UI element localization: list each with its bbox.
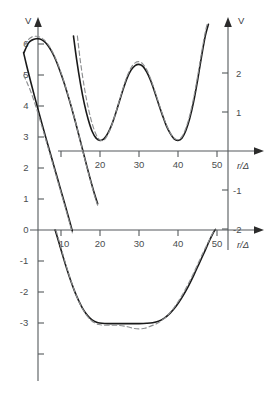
left-axis-group: V 6 5 4 3 2 1 0 -1 (20, 15, 44, 381)
curve-steep-branch-solid (24, 53, 73, 231)
bottom-x-axis-arrowhead (254, 226, 264, 234)
bottom-tick-label-30: 30 (134, 238, 145, 249)
right-axis-title: V (238, 15, 245, 26)
left-tick-label-0: 0 (23, 224, 28, 235)
bottom-x-axis-group: r/Δ 10 20 30 40 50 (30, 226, 264, 250)
right-tick-label-neg1: -1 (233, 185, 241, 196)
curve-upper-branch-dashed (24, 36, 97, 205)
left-tick-label-1: 1 (23, 193, 28, 204)
left-tick-label-4: 4 (23, 100, 28, 111)
curve-oscillating-curve-dashed (77, 22, 207, 140)
bottom-tick-label-50: 50 (212, 238, 223, 249)
left-tick-label-neg3: -3 (20, 317, 28, 328)
left-axis-ticks (38, 44, 44, 354)
bottom-tick-label-20: 20 (95, 238, 106, 249)
middle-x-axis-group: r/Δ 20 30 40 50 (58, 147, 264, 171)
bottom-x-axis-tick-labels: 10 20 30 40 50 (59, 238, 223, 249)
right-tick-label-2: 2 (236, 68, 241, 79)
middle-tick-label-40: 40 (173, 159, 184, 170)
middle-tick-label-20: 20 (95, 159, 106, 170)
middle-x-axis-arrowhead (254, 147, 264, 155)
curve-upper-branch-solid (24, 39, 98, 204)
middle-x-axis-tick-labels: 20 30 40 50 (95, 159, 223, 170)
right-axis-arrowhead (224, 17, 232, 27)
left-tick-label-3: 3 (23, 131, 28, 142)
left-axis-arrowhead (34, 17, 42, 27)
curve-steep-branch-dashed (24, 75, 73, 233)
potential-curve-figure: V 6 5 4 3 2 1 0 -1 (0, 0, 272, 395)
middle-tick-label-50: 50 (212, 159, 223, 170)
left-tick-label-neg2: -2 (20, 286, 28, 297)
middle-x-axis-title: r/Δ (237, 160, 249, 171)
middle-tick-label-30: 30 (134, 159, 145, 170)
right-tick-label-1: 1 (236, 107, 241, 118)
curve-layer (24, 22, 216, 329)
left-axis-tick-labels: 6 5 4 3 2 1 0 -1 -2 -3 (20, 38, 29, 328)
left-tick-label-2: 2 (23, 162, 28, 173)
bottom-x-axis-ticks (61, 230, 217, 236)
right-tick-label-neg2: -2 (233, 224, 241, 235)
bottom-tick-label-40: 40 (173, 238, 184, 249)
plot-canvas: V 6 5 4 3 2 1 0 -1 (0, 0, 272, 395)
left-tick-label-neg1: -1 (20, 255, 28, 266)
right-axis-group: V 2 1 -1 -2 (222, 15, 245, 250)
bottom-x-axis-title: r/Δ (237, 239, 249, 250)
left-axis-title: V (25, 15, 32, 26)
